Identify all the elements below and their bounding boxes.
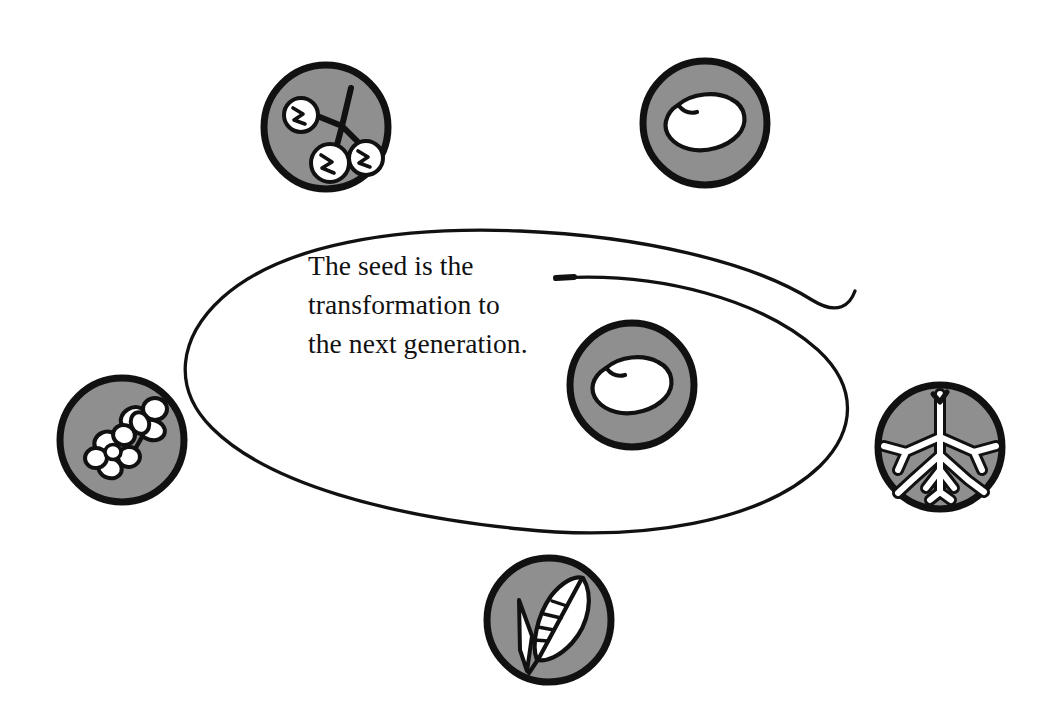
badge-fruits[interactable] (264, 65, 388, 189)
badge-flowers[interactable] (60, 378, 184, 502)
badge-leaf[interactable] (487, 558, 611, 682)
badge-seed-top[interactable] (643, 61, 767, 185)
badge-seed-center[interactable] (570, 323, 694, 447)
figure-canvas: The seed is the transformation to the ne… (0, 0, 1054, 724)
badge-roots[interactable] (878, 385, 1002, 509)
diagram-caption: The seed is the transformation to the ne… (308, 246, 570, 363)
